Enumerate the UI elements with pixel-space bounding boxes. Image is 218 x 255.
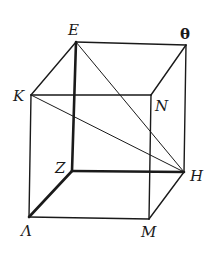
edge-TH-H [184, 45, 186, 172]
cube-edges [29, 42, 186, 219]
edge-E-Z [72, 42, 76, 171]
edge-TH-N [151, 45, 186, 95]
label-M: M [140, 223, 157, 241]
label-N: N [154, 97, 169, 115]
edge-K-L [29, 95, 31, 217]
label-E: E [67, 21, 79, 39]
edge-Z-L [29, 171, 72, 217]
vertex-labels: E θ K N Z H Λ M [12, 21, 204, 241]
label-H: H [189, 167, 204, 185]
edge-Z-H [72, 171, 184, 172]
label-Z: Z [54, 159, 66, 177]
label-Lambda: Λ [19, 222, 32, 240]
edge-N-M [149, 95, 151, 219]
label-theta: θ [180, 25, 190, 43]
edge-E-TH [76, 42, 186, 45]
edge-M-H [149, 172, 184, 219]
edge-E-K [31, 42, 76, 95]
label-K: K [12, 87, 25, 105]
cube-diagram: E θ K N Z H Λ M [0, 0, 218, 255]
edge-L-M [29, 217, 149, 219]
